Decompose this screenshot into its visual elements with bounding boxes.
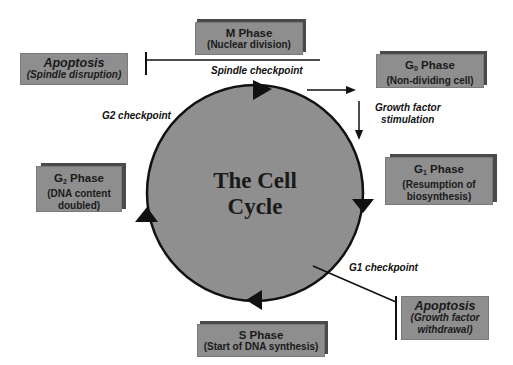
- m-phase-subtitle: (Nuclear division): [196, 39, 302, 51]
- arrow-to-g0-head-icon: [346, 86, 356, 94]
- m-phase-title: M Phase: [196, 27, 302, 39]
- g1-phase-title: G1 Phase: [386, 163, 492, 179]
- g2-phase-title: G2 Phase: [37, 172, 121, 188]
- g1-checkpoint-label: G1 checkpoint: [349, 262, 418, 273]
- s-phase-subtitle: (Start of DNA synthesis): [198, 341, 324, 353]
- arrow-growth-factor-head-icon: [355, 130, 363, 140]
- apoptosis-spindle-title: Apoptosis: [21, 57, 127, 69]
- apoptosis-growth-box: Apoptosis (Growth factor withdrawal): [401, 296, 489, 340]
- g0-phase-box: G0 Phase (Non-dividing cell): [376, 54, 484, 88]
- center-title-line1: The Cell: [185, 168, 325, 194]
- apoptosis-growth-title: Apoptosis: [402, 300, 488, 312]
- g1-phase-subtitle-line2: biosynthesis): [386, 191, 492, 203]
- g1-phase-box: G1 Phase (Resumption of biosynthesis): [385, 157, 493, 205]
- g0-phase-subtitle: (Non-dividing cell): [377, 75, 483, 87]
- g0-phase-title: G0 Phase: [377, 59, 483, 75]
- m-phase-box: M Phase (Nuclear division): [195, 22, 303, 55]
- g1-phase-subtitle-line1: (Resumption of: [386, 179, 492, 191]
- spindle-checkpoint-label: Spindle checkpoint: [211, 65, 303, 76]
- center-title: The Cell Cycle: [185, 168, 325, 220]
- apoptosis-growth-subtitle-line1: (Growth factor: [402, 312, 488, 324]
- s-phase-box: S Phase (Start of DNA synthesis): [197, 324, 325, 357]
- apoptosis-spindle-subtitle: (Spindle disruption): [21, 69, 127, 81]
- g2-phase-subtitle-line2: doubled): [37, 200, 121, 212]
- apoptosis-spindle-box: Apoptosis (Spindle disruption): [20, 53, 128, 85]
- growth-factor-label: Growth factor stimulation: [375, 102, 441, 126]
- g2-phase-subtitle-line1: (DNA content: [37, 188, 121, 200]
- g2-phase-box: G2 Phase (DNA content doubled): [36, 166, 122, 212]
- apoptosis-growth-subtitle-line2: withdrawal): [402, 324, 488, 336]
- cell-cycle-diagram: The Cell Cycle M Phase (Nuclear division…: [0, 0, 513, 365]
- g2-checkpoint-label: G2 checkpoint: [102, 110, 171, 121]
- center-title-line2: Cycle: [185, 194, 325, 220]
- s-phase-title: S Phase: [198, 329, 324, 341]
